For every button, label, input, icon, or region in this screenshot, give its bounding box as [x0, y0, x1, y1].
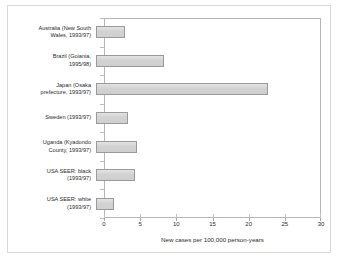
bar-row: Japan (Osaka prefecture, 1993/97) [8, 75, 338, 104]
category-label: Australia (New South Wales, 1993/97) [8, 25, 96, 40]
bar [96, 55, 164, 67]
category-label: Brazil (Goiania, 1995/98) [8, 53, 96, 68]
bar-track [96, 104, 313, 133]
bar [96, 112, 128, 124]
x-axis-tick-labels: 051015202530 [104, 221, 321, 231]
x-tick-label: 25 [281, 221, 288, 227]
bar [96, 141, 137, 153]
bar-track [96, 18, 313, 47]
x-tick-label: 5 [138, 221, 141, 227]
x-tick-label: 20 [245, 221, 252, 227]
x-axis-title: New cases per 100,000 person-years [104, 236, 321, 243]
category-label: USA SEER: white (1993/97) [8, 196, 96, 211]
bar-track [96, 132, 313, 161]
bar-row: Australia (New South Wales, 1993/97) [8, 18, 338, 47]
x-tick-label: 10 [173, 221, 180, 227]
bar-row: Uganda (Kyadondo County, 1993/97) [8, 132, 338, 161]
bar [96, 198, 114, 210]
bar [96, 26, 125, 38]
bar-rows: Australia (New South Wales, 1993/97)Braz… [8, 18, 338, 218]
category-label: Sweden (1993/97) [8, 114, 96, 121]
category-label: USA SEER: black (1993/97) [8, 168, 96, 183]
bar-row: Sweden (1993/97) [8, 104, 338, 133]
bar-row: Brazil (Goiania, 1995/98) [8, 47, 338, 76]
x-tick-label: 15 [209, 221, 216, 227]
bar-track [96, 47, 313, 76]
bar [96, 169, 135, 181]
category-label: Japan (Osaka prefecture, 1993/97) [8, 82, 96, 97]
bar-row: USA SEER: black (1993/97) [8, 161, 338, 190]
x-tick-label: 0 [102, 221, 105, 227]
x-tick-label: 30 [318, 221, 325, 227]
bar [96, 83, 268, 95]
bar-track [96, 161, 313, 190]
bar-track [96, 75, 313, 104]
figure-container: Australia (New South Wales, 1993/97)Braz… [7, 5, 331, 253]
category-label: Uganda (Kyadondo County, 1993/97) [8, 139, 96, 154]
